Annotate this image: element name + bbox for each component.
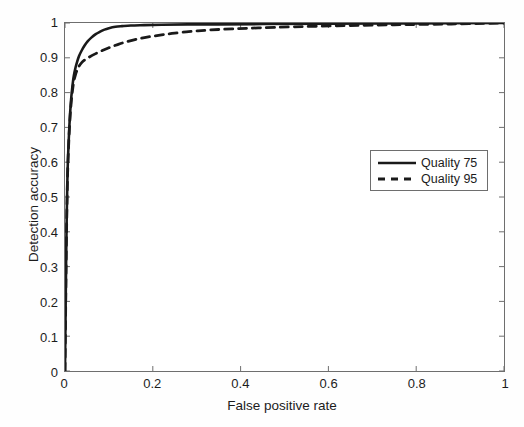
- legend-item-quality-75: Quality 75: [377, 155, 482, 171]
- legend-label-quality-95: Quality 95: [421, 173, 477, 186]
- legend-box: Quality 75 Quality 95: [370, 150, 488, 191]
- y-tick-label: 1: [22, 16, 58, 29]
- x-tick-label: 0.2: [143, 377, 161, 390]
- y-axis-title-text: Detection accuracy: [26, 147, 41, 262]
- y-tick-label: 0.8: [22, 86, 58, 99]
- y-axis-title: Detection accuracy: [26, 115, 41, 295]
- y-tick-label: 0: [22, 366, 58, 379]
- x-tick-label: 1: [501, 377, 508, 390]
- roc-chart-figure: 00.20.40.60.81 00.10.20.30.40.50.60.70.8…: [0, 0, 524, 427]
- legend-label-quality-75: Quality 75: [421, 157, 477, 170]
- x-tick-label: 0: [60, 377, 67, 390]
- x-axis-title-text: False positive rate: [227, 398, 337, 413]
- x-tick-label: 0.6: [320, 377, 338, 390]
- y-tick-label: 0.1: [22, 331, 58, 344]
- legend-line-sample-solid: [377, 157, 417, 169]
- x-tick-label: 0.8: [408, 377, 426, 390]
- y-tick-label: 0.9: [22, 51, 58, 64]
- plot-area: [64, 22, 505, 372]
- x-axis-title: False positive rate: [0, 398, 524, 413]
- y-tick-label: 0.2: [22, 296, 58, 309]
- tick-marks: [65, 23, 504, 371]
- x-tick-label: 0.4: [231, 377, 249, 390]
- series-line-quality-95: [65, 23, 504, 371]
- data-series-group: [65, 23, 504, 371]
- curve-canvas: [65, 23, 504, 371]
- legend-line-sample-dashed: [377, 173, 417, 185]
- legend-item-quality-95: Quality 95: [377, 171, 482, 187]
- series-line-quality-75: [65, 23, 504, 371]
